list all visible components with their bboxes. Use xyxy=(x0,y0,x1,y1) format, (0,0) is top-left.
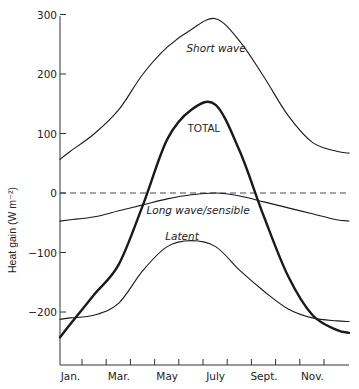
y-tick-label: 100 xyxy=(37,128,57,140)
y-tick-label: 300 xyxy=(37,9,57,21)
x-tick-label: Mar. xyxy=(108,370,130,382)
label-total: TOTAL xyxy=(188,122,221,134)
x-tick-label: Sept. xyxy=(250,370,277,382)
x-tick-label: May xyxy=(156,370,178,382)
label-short-wave: Short wave xyxy=(186,42,245,54)
heat-gain-chart: 3002001000−100−200 Jan.Mar.MayJulySept.N… xyxy=(0,0,359,389)
x-axis-ticks: Jan.Mar.MayJulySept.Nov. xyxy=(60,359,324,382)
label-latent: Latent xyxy=(165,230,200,242)
series-line-short-wave xyxy=(60,18,349,159)
x-tick-label: July xyxy=(205,370,225,382)
y-axis-title: Heat gain (W m⁻²) xyxy=(6,187,18,273)
label-long-wave-sensible: Long wave/sensible xyxy=(146,204,249,216)
x-tick-label: Jan. xyxy=(60,370,81,382)
y-tick-label: −100 xyxy=(28,247,57,259)
series-lines xyxy=(60,18,349,337)
x-tick-label: Nov. xyxy=(301,370,324,382)
y-tick-label: 200 xyxy=(37,68,57,80)
series-line-latent xyxy=(60,241,349,322)
y-tick-label: −200 xyxy=(28,306,57,318)
y-tick-label: 0 xyxy=(50,187,57,199)
